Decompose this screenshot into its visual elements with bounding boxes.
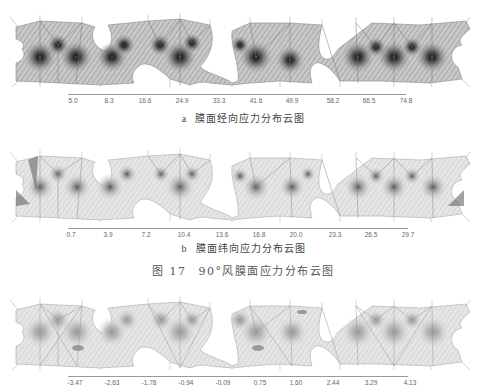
scale-tick: 0.75	[254, 379, 267, 386]
figure-title-text: 90°风膜面应力分布云图	[199, 265, 336, 278]
caption-text: 膜面纬向应力分布云图	[196, 243, 306, 254]
scale-tick: 3.9	[103, 231, 112, 238]
scale-tick: -0.94	[179, 379, 194, 386]
scale-tick: 8.3	[104, 97, 113, 104]
panel-c: -3.47 -2.63 -1.78 -0.94 -0.09 0.75 1.60 …	[0, 288, 487, 389]
panel-b-caption: b膜面纬向应力分布云图	[0, 240, 487, 255]
scale-tick: 49.9	[286, 97, 299, 104]
scale-tick: 2.44	[327, 379, 340, 386]
scale-tick: 13.6	[216, 231, 229, 238]
panel-label: a	[182, 113, 187, 124]
stress-contour-plot-c	[0, 288, 487, 370]
panel-a-caption: a膜面经向应力分布云图	[0, 110, 487, 125]
scale-bar	[68, 94, 406, 95]
scale-bar	[68, 228, 408, 229]
scale-tick: -1.78	[142, 379, 157, 386]
figure-number: 图 17	[152, 265, 187, 278]
scale-tick: -2.63	[105, 379, 120, 386]
legend-scale-c: -3.47 -2.63 -1.78 -0.94 -0.09 0.75 1.60 …	[0, 376, 487, 389]
panel-label: b	[182, 243, 188, 254]
scale-tick: 29.7	[402, 231, 415, 238]
legend-scale-a: 5.0 8.3 16.6 24.9 33.3 41.6 49.9 58.2 66…	[0, 94, 487, 108]
scale-tick: 1.60	[290, 379, 303, 386]
caption-text: 膜面经向应力分布云图	[195, 113, 305, 124]
scale-tick: 23.3	[329, 231, 342, 238]
scale-tick: 3.29	[365, 379, 378, 386]
scale-tick: -3.47	[68, 379, 83, 386]
scale-tick: 24.9	[176, 97, 189, 104]
panel-a: 5.0 8.3 16.6 24.9 33.3 41.6 49.9 58.2 66…	[0, 0, 487, 130]
scale-tick: 16.8	[253, 231, 266, 238]
scale-tick: 7.2	[141, 231, 150, 238]
scale-tick: 10.4	[178, 231, 191, 238]
weft-stress-contour-plot	[0, 140, 487, 222]
scale-tick: 16.6	[139, 97, 152, 104]
scale-tick: 4.13	[404, 379, 417, 386]
scale-tick: -0.09	[216, 379, 231, 386]
scale-tick: 66.5	[363, 97, 376, 104]
panel-b: 0.7 3.9 7.2 10.4 13.6 16.8 20.0 23.3 26.…	[0, 140, 487, 250]
warp-stress-contour-plot	[0, 5, 487, 87]
scale-tick: 5.0	[68, 97, 77, 104]
scale-bar	[68, 376, 408, 377]
scale-tick: 58.2	[327, 97, 340, 104]
scale-tick: 41.6	[250, 97, 263, 104]
scale-tick: 26.5	[365, 231, 378, 238]
figure-title: 图 1790°风膜面应力分布云图	[0, 262, 487, 278]
scale-tick: 20.0	[290, 231, 303, 238]
scale-tick: 74.8	[400, 97, 413, 104]
scale-tick: 0.7	[66, 231, 75, 238]
scale-tick: 33.3	[213, 97, 226, 104]
